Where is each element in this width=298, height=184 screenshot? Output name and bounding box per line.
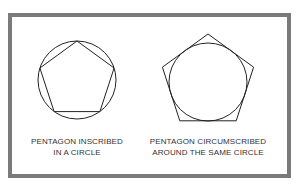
circumscribed-pentagon — [162, 34, 253, 121]
caption-circumscribed: PENTAGON CIRCUMSCRIBED AROUND THE SAME C… — [146, 136, 270, 158]
inscribed-pentagon — [40, 41, 114, 112]
left-circle — [38, 41, 116, 119]
caption-inscribed: PENTAGON INSCRIBED IN A CIRCLE — [20, 136, 134, 158]
right-circle — [169, 43, 247, 121]
